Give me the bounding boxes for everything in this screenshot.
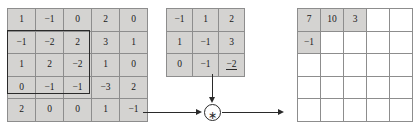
convolution-kernel: −1 1 2 1 −1 3 0 −1 −2 (166, 8, 245, 77)
output-cell-r2c4 (367, 31, 390, 54)
output-cell-r4c4 (367, 76, 390, 99)
input-to-operator-arrowhead (196, 109, 202, 115)
input-feature-map: 1 −1 0 2 0 −1 −2 2 3 1 1 2 −2 1 0 0 (7, 8, 148, 122)
input-cell-r4c1: 0 (8, 76, 36, 99)
output-cell-r4c3 (344, 76, 367, 99)
table-row: −1 −2 2 3 1 (8, 31, 148, 54)
input-cell-r4c5: 2 (120, 76, 148, 99)
input-cell-r1c5: 0 (120, 9, 148, 32)
asterisk-icon: ∗ (205, 105, 220, 120)
input-cell-r1c4: 2 (92, 9, 120, 32)
output-feature-map: 7 10 3 −1 (297, 8, 413, 122)
input-cell-r5c5: −1 (120, 99, 148, 122)
operator-to-output-line (222, 112, 279, 113)
kernel-cell-r3c1: 0 (167, 54, 193, 77)
input-cell-r3c1: 1 (8, 54, 36, 77)
table-row: 0 −1 −1 −3 2 (8, 76, 148, 99)
input-cell-r3c3: −2 (64, 54, 92, 77)
output-cell-r3c3 (344, 54, 367, 77)
table-row: 0 −1 −2 (167, 54, 245, 77)
kernel-cell-r2c3: 3 (219, 31, 245, 54)
operator-to-output-arrowhead (278, 109, 284, 115)
kernel-cell-r3c3-value: −2 (226, 60, 236, 71)
input-cell-r1c2: −1 (36, 9, 64, 32)
table-row (298, 76, 413, 99)
output-cell-r2c1: −1 (298, 31, 321, 54)
input-cell-r1c1: 1 (8, 9, 36, 32)
kernel-matrix-table: −1 1 2 1 −1 3 0 −1 −2 (166, 8, 245, 77)
input-to-operator-line (143, 112, 197, 113)
input-cell-r2c4: 3 (92, 31, 120, 54)
kernel-cell-r2c1: 1 (167, 31, 193, 54)
table-row: −1 (298, 31, 413, 54)
input-cell-r3c4: 1 (92, 54, 120, 77)
output-cell-r1c2: 10 (321, 9, 344, 32)
table-row: 1 2 −2 1 0 (8, 54, 148, 77)
output-cell-r4c5 (390, 76, 413, 99)
output-cell-r4c1 (298, 76, 321, 99)
output-matrix-table: 7 10 3 −1 (297, 8, 413, 122)
convolution-operator: ∗ (204, 104, 221, 121)
output-cell-r4c2 (321, 76, 344, 99)
table-row: 2 0 0 1 −1 (8, 99, 148, 122)
output-cell-r5c3 (344, 99, 367, 122)
output-cell-r5c1 (298, 99, 321, 122)
output-cell-r3c1 (298, 54, 321, 77)
input-cell-r3c2: 2 (36, 54, 64, 77)
input-cell-r5c2: 0 (36, 99, 64, 122)
output-cell-r1c4 (367, 9, 390, 32)
output-cell-r3c2 (321, 54, 344, 77)
input-cell-r4c2: −1 (36, 76, 64, 99)
input-matrix-table: 1 −1 0 2 0 −1 −2 2 3 1 1 2 −2 1 0 0 (7, 8, 148, 122)
kernel-to-operator-line (212, 74, 213, 98)
output-cell-r5c2 (321, 99, 344, 122)
output-cell-r3c4 (367, 54, 390, 77)
table-row: 7 10 3 (298, 9, 413, 32)
table-row: −1 1 2 (167, 9, 245, 32)
input-cell-r5c3: 0 (64, 99, 92, 122)
operator-symbol: ∗ (208, 110, 217, 121)
kernel-to-operator-arrowhead (209, 97, 215, 103)
table-row: 1 −1 0 2 0 (8, 9, 148, 32)
output-cell-r1c5 (390, 9, 413, 32)
output-cell-r2c3 (344, 31, 367, 54)
table-row (298, 54, 413, 77)
input-cell-r2c2: −2 (36, 31, 64, 54)
output-cell-r1c3: 3 (344, 9, 367, 32)
table-row (298, 99, 413, 122)
table-row: 1 −1 3 (167, 31, 245, 54)
kernel-cell-r1c2: 1 (193, 9, 219, 32)
kernel-cell-r1c3: 2 (219, 9, 245, 32)
output-cell-r5c5 (390, 99, 413, 122)
output-cell-r2c5 (390, 31, 413, 54)
output-cell-r1c1: 7 (298, 9, 321, 32)
output-cell-r3c5 (390, 54, 413, 77)
input-cell-r5c1: 2 (8, 99, 36, 122)
kernel-cell-r1c1: −1 (167, 9, 193, 32)
input-cell-r2c3: 2 (64, 31, 92, 54)
kernel-cell-r3c3: −2 (219, 54, 245, 77)
input-cell-r4c3: −1 (64, 76, 92, 99)
input-cell-r2c1: −1 (8, 31, 36, 54)
input-cell-r5c4: 1 (92, 99, 120, 122)
kernel-cell-r3c2: −1 (193, 54, 219, 77)
input-cell-r3c5: 0 (120, 54, 148, 77)
output-cell-r2c2 (321, 31, 344, 54)
input-cell-r1c3: 0 (64, 9, 92, 32)
convolution-diagram: 1 −1 0 2 0 −1 −2 2 3 1 1 2 −2 1 0 0 (0, 0, 415, 137)
kernel-cell-r2c2: −1 (193, 31, 219, 54)
input-cell-r2c5: 1 (120, 31, 148, 54)
input-cell-r4c4: −3 (92, 76, 120, 99)
output-cell-r5c4 (367, 99, 390, 122)
